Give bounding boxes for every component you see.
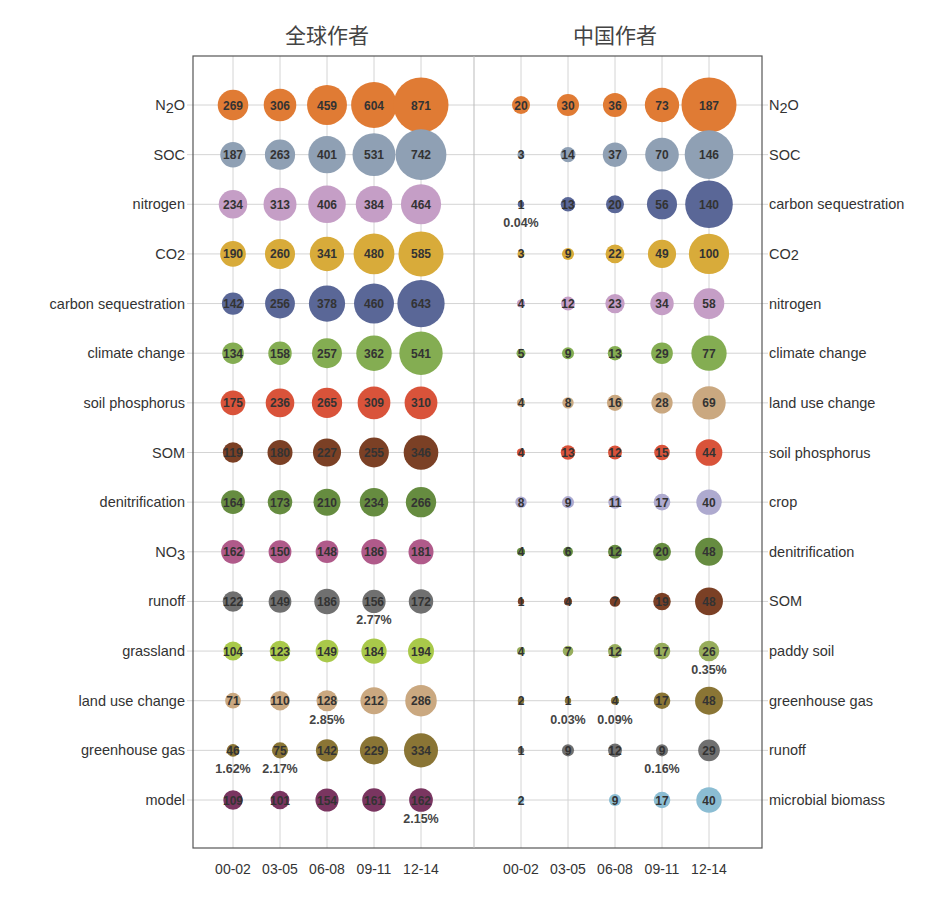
bubble-value: 3 (518, 247, 525, 261)
bubble-value: 234 (364, 496, 384, 510)
bubble-value: 17 (655, 496, 669, 510)
row-label-global: N2O (155, 97, 185, 116)
row-label-china: crop (769, 494, 797, 510)
bubble-value: 2 (518, 794, 525, 808)
bubble-value: 480 (364, 247, 384, 261)
bubbles: 2693064596048711872634015317422343134063… (218, 78, 737, 813)
bubble-value: 309 (364, 396, 384, 410)
bubble-value: 77 (702, 347, 716, 361)
x-tick-label: 03-05 (550, 861, 586, 877)
bubble-value: 158 (270, 347, 290, 361)
bubble-value: 23 (608, 297, 622, 311)
bubble-value: 4 (565, 595, 572, 609)
bubble-value: 142 (317, 744, 337, 758)
bubble-value: 48 (702, 694, 716, 708)
bubble-value: 75 (273, 744, 287, 758)
bubble-value: 341 (317, 247, 337, 261)
bubble-value: 28 (655, 396, 669, 410)
panel-title-global: 全球作者 (285, 24, 369, 48)
bubble-value: 362 (364, 347, 384, 361)
bubble-value: 7 (565, 645, 572, 659)
bubble-value: 12 (608, 545, 622, 559)
bubble-value: 346 (411, 446, 431, 460)
row-label-global: denitrification (100, 494, 185, 510)
row-label-china: microbial biomass (769, 792, 885, 808)
percent-annotation: 2.17% (262, 762, 297, 776)
bubble-value: 5 (518, 347, 525, 361)
percent-annotation: 0.09% (597, 713, 632, 727)
bubble-value: 164 (223, 496, 243, 510)
bubble-value: 9 (565, 496, 572, 510)
bubble-value: 2 (518, 694, 525, 708)
bubble-value: 4 (518, 396, 525, 410)
bubble-value: 7 (612, 595, 619, 609)
panel-title-china: 中国作者 (573, 24, 657, 48)
row-label-china: N2O (769, 97, 799, 116)
x-tick-label: 06-08 (597, 861, 633, 877)
row-label-china: land use change (769, 395, 875, 411)
percent-annotation: 2.15% (403, 812, 438, 826)
row-label-china: carbon sequestration (769, 196, 904, 212)
bubble-value: 109 (223, 794, 243, 808)
bubble-value: 154 (317, 794, 337, 808)
bubble-value: 585 (411, 247, 431, 261)
bubble-value: 459 (317, 99, 337, 113)
bubble-value: 9 (659, 744, 666, 758)
bubble-value: 49 (655, 247, 669, 261)
bubble-value: 9 (612, 794, 619, 808)
bubble-value: 148 (317, 545, 337, 559)
x-tick-label: 06-08 (309, 861, 345, 877)
row-label-global: climate change (87, 345, 185, 361)
bubble-value: 260 (270, 247, 290, 261)
row-label-china: soil phosphorus (769, 445, 871, 461)
bubble-value: 186 (364, 545, 384, 559)
bubble-value: 73 (655, 99, 669, 113)
bubble-value: 3 (518, 148, 525, 162)
row-label-global: land use change (79, 693, 185, 709)
row-label-global: SOC (154, 147, 185, 163)
percent-annotation: 2.85% (309, 713, 344, 727)
bubble-value: 149 (317, 645, 337, 659)
bubble-value: 4 (518, 297, 525, 311)
bubble-value: 36 (608, 99, 622, 113)
bubble-value: 29 (702, 744, 716, 758)
bubble-value: 384 (364, 198, 384, 212)
bubble-value: 236 (270, 396, 290, 410)
bubble-value: 40 (702, 794, 716, 808)
row-label-china: denitrification (769, 544, 854, 560)
bubble-value: 142 (223, 297, 243, 311)
row-label-china: runoff (769, 742, 807, 758)
bubble-value: 1 (518, 595, 525, 609)
bubble-value: 26 (702, 645, 716, 659)
bubble-value: 187 (223, 148, 243, 162)
bubble-value: 70 (655, 148, 669, 162)
bubble-value: 162 (223, 545, 243, 559)
bubble-value: 531 (364, 148, 384, 162)
bubble-value: 162 (411, 794, 431, 808)
bubble-value: 37 (608, 148, 622, 162)
bubble-value: 180 (270, 446, 290, 460)
bubble-value: 212 (364, 694, 384, 708)
bubble-value: 186 (317, 595, 337, 609)
row-label-global: NO3 (155, 544, 185, 563)
bubble-value: 234 (223, 198, 243, 212)
bubble-value: 8 (565, 396, 572, 410)
bubble-value: 9 (565, 247, 572, 261)
bubble-value: 8 (518, 496, 525, 510)
bubble-value: 19 (655, 595, 669, 609)
bubble-value: 541 (411, 347, 431, 361)
bubble-value: 15 (655, 446, 669, 460)
bubble-value: 194 (411, 645, 431, 659)
bubble-value: 269 (223, 99, 243, 113)
bubble-value: 4 (518, 645, 525, 659)
bubble-value: 17 (655, 794, 669, 808)
percent-annotation: 0.04% (503, 216, 538, 230)
bubble-value: 119 (223, 446, 243, 460)
bubble-value: 181 (411, 545, 431, 559)
x-tick-label: 12-14 (691, 861, 727, 877)
bubble-value: 1 (518, 744, 525, 758)
row-label-global: soil phosphorus (83, 395, 185, 411)
row-label-china: greenhouse gas (769, 693, 873, 709)
bubble-value: 123 (270, 645, 290, 659)
row-label-global: grassland (122, 643, 185, 659)
